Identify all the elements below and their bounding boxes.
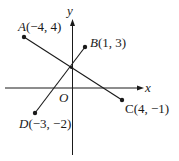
point-c [120,98,124,102]
x-axis-arrow-icon [137,86,144,91]
x-axis-label: x [144,80,151,95]
intersection-point [70,66,73,69]
point-d-label: D(−3, −2) [18,116,71,131]
point-a [22,35,26,39]
point-d [33,111,37,115]
point-b-label: B(1, 3) [90,35,126,50]
y-axis-label: y [65,3,73,18]
y-axis-arrow-icon [70,19,75,26]
point-a-label: A(−4, 4) [17,19,61,34]
point-c-label: C(4, −1) [125,101,169,116]
coordinate-diagram: y x O A(−4, 4) B(1, 3) C(4, −1) D(−3, −2… [0,0,179,161]
origin-label: O [59,90,69,105]
point-b [83,45,87,49]
